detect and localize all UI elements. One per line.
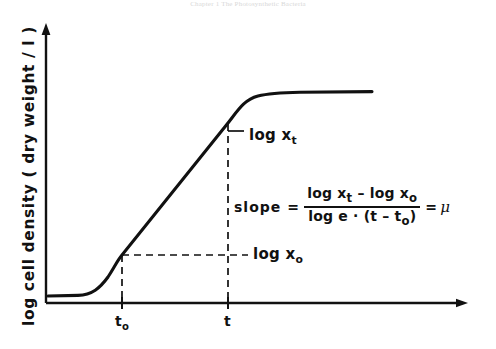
annotation-log-xt-text: log x — [249, 126, 292, 144]
x-tick-label-t: t — [224, 313, 231, 329]
x-tick-label-t0: to — [115, 313, 129, 332]
formula-den-a: log e — [308, 208, 348, 224]
plot-canvas — [0, 0, 496, 349]
formula-den-b-sub: o — [401, 214, 409, 228]
annotation-log-xo: log xo — [253, 245, 303, 266]
y-axis — [42, 23, 51, 303]
formula-num-a: log x — [307, 185, 346, 201]
footer-note — [6, 338, 346, 346]
slope-formula: slope = log xt – log xo log e · (t – to)… — [234, 186, 450, 228]
x-tick-label-t-text: t — [224, 313, 231, 329]
x-axis — [46, 299, 468, 307]
formula-lhs: slope — [234, 199, 281, 215]
formula-result-mu: μ — [440, 198, 450, 216]
formula-den-b-close: ) — [410, 208, 417, 224]
x-tick-label-t0-sub: o — [122, 321, 129, 332]
formula-num-a-sub: t — [347, 191, 353, 205]
annotation-log-xt: log xt — [249, 126, 297, 147]
formula-num-b: log x — [370, 185, 409, 201]
formula-result-equals: = — [425, 199, 437, 215]
formula-denominator: log e · (t – to) — [305, 208, 419, 228]
growth-curve-figure: Chapter 1 The Photosynthetic Bacteria lo… — [0, 0, 496, 349]
formula-fraction: log xt – log xo log e · (t – to) — [304, 186, 420, 228]
annotation-log-xo-sub: o — [296, 253, 304, 266]
x-tick-label-t0-text: t — [115, 313, 122, 329]
formula-den-b: (t – t — [364, 208, 402, 224]
annotation-log-xt-sub: t — [292, 134, 297, 147]
formula-numerator: log xt – log xo — [304, 186, 420, 206]
formula-num-op: – — [357, 185, 364, 201]
formula-num-b-sub: o — [409, 191, 417, 205]
formula-equals: = — [287, 199, 299, 215]
formula-den-dot: · — [353, 208, 359, 224]
annotation-log-xo-text: log x — [253, 245, 296, 263]
